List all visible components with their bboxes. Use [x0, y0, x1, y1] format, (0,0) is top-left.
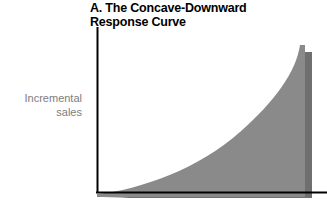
response-curve-area — [97, 45, 305, 197]
figure-panel: A. The Concave-Downward Response Curve I… — [0, 0, 327, 221]
curve-fill-group — [97, 45, 305, 197]
plot-area — [0, 0, 327, 221]
